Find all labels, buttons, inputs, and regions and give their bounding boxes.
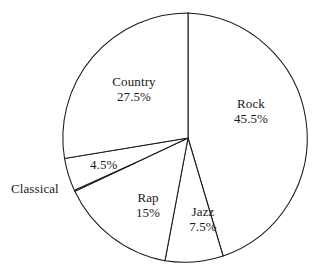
pie-label-rap-value: 15% xyxy=(115,205,181,220)
pie-label-country-name: Country xyxy=(92,74,176,89)
pie-label-classical-value-group: 4.5% xyxy=(90,157,134,172)
pie-chart-canvas xyxy=(0,0,323,280)
pie-label-rock-value: 45.5% xyxy=(215,111,287,126)
pie-label-country-value: 27.5% xyxy=(92,89,176,104)
pie-label-jazz-name: Jazz xyxy=(176,204,230,219)
pie-label-classical-name: Classical xyxy=(11,181,77,196)
pie-label-classical-name-group: Classical xyxy=(11,181,77,196)
pie-label-rock-name: Rock xyxy=(215,96,287,111)
pie-label-rap-name: Rap xyxy=(115,190,181,205)
pie-label-classical-value: 4.5% xyxy=(90,157,134,172)
pie-label-jazz: Jazz 7.5% xyxy=(176,204,230,235)
pie-label-country: Country 27.5% xyxy=(92,74,176,105)
pie-label-jazz-value: 7.5% xyxy=(176,219,230,234)
pie-label-rock: Rock 45.5% xyxy=(215,96,287,127)
pie-label-rap: Rap 15% xyxy=(115,190,181,221)
pie-chart-figure: Rock 45.5% Country 27.5% Rap 15% Jazz 7.… xyxy=(0,0,323,280)
